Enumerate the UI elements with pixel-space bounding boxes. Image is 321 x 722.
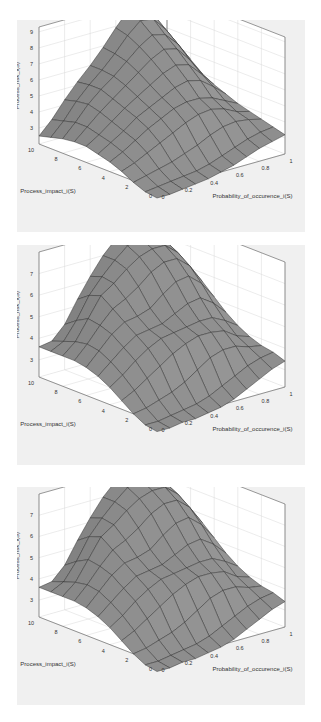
z-axis-label: Process_risk_i(S) bbox=[17, 532, 20, 579]
y-tick-label: 6 bbox=[78, 398, 81, 404]
surface-plot-2-canvas: 34567024681000.20.40.60.81Process_impact… bbox=[17, 245, 305, 465]
x-tick-label: 0.4 bbox=[210, 653, 218, 659]
x-axis-label: Probability_of_occurence_i(S) bbox=[212, 193, 292, 199]
x-tick-label: 0.8 bbox=[262, 638, 270, 644]
z-tick-label: 7 bbox=[30, 61, 33, 67]
z-axis-label: Process_risk_i(S) bbox=[17, 62, 20, 109]
y-tick-label: 8 bbox=[55, 629, 58, 635]
z-tick-label: 9 bbox=[30, 29, 33, 35]
z-tick-label: 5 bbox=[30, 314, 33, 320]
y-tick-label: 2 bbox=[125, 184, 128, 190]
y-tick-label: 0 bbox=[149, 426, 152, 432]
x-tick-label: 0.8 bbox=[262, 165, 270, 171]
z-tick-label: 6 bbox=[30, 77, 33, 83]
y-tick-label: 4 bbox=[102, 648, 105, 654]
x-axis-label: Probability_of_occurence_i(S) bbox=[212, 666, 292, 672]
y-tick-label: 10 bbox=[28, 380, 34, 386]
z-tick-label: 5 bbox=[30, 555, 33, 561]
y-tick-label: 0 bbox=[149, 193, 152, 199]
y-tick-label: 10 bbox=[28, 620, 34, 626]
surface-plot-1-canvas: 3456789024681000.20.40.60.81Process_impa… bbox=[17, 20, 305, 232]
x-tick-label: 1 bbox=[289, 391, 292, 397]
y-tick-label: 8 bbox=[55, 389, 58, 395]
z-tick-label: 5 bbox=[30, 93, 33, 99]
z-tick-label: 6 bbox=[30, 533, 33, 539]
y-tick-label: 2 bbox=[125, 417, 128, 423]
x-tick-label: 0.2 bbox=[185, 660, 193, 666]
z-tick-label: 3 bbox=[30, 125, 33, 131]
z-tick-label: 6 bbox=[30, 292, 33, 298]
z-tick-label: 3 bbox=[30, 597, 33, 603]
x-tick-label: 0 bbox=[161, 194, 164, 200]
surface-plot-3-canvas: 34567024681000.20.40.60.81Process_impact… bbox=[17, 487, 305, 705]
y-axis-label: Process_impact_i(S) bbox=[20, 188, 75, 194]
z-tick-label: 4 bbox=[30, 109, 33, 115]
y-tick-label: 2 bbox=[125, 657, 128, 663]
y-tick-label: 6 bbox=[78, 165, 81, 171]
z-tick-label: 8 bbox=[30, 45, 33, 51]
x-tick-label: 0.4 bbox=[210, 180, 218, 186]
surface-plot-2: 34567024681000.20.40.60.81Process_impact… bbox=[17, 245, 305, 465]
x-tick-label: 0 bbox=[161, 427, 164, 433]
z-tick-label: 7 bbox=[30, 512, 33, 518]
z-tick-label: 4 bbox=[30, 576, 33, 582]
x-axis-label: Probability_of_occurence_i(S) bbox=[212, 426, 292, 432]
x-tick-label: 1 bbox=[289, 158, 292, 164]
y-axis-label: Process_impact_i(S) bbox=[20, 421, 75, 427]
z-axis-label: Process_risk_i(S) bbox=[17, 291, 20, 338]
x-tick-label: 0.4 bbox=[210, 413, 218, 419]
x-tick-label: 0.8 bbox=[262, 398, 270, 404]
y-tick-label: 6 bbox=[78, 638, 81, 644]
x-tick-label: 1 bbox=[289, 631, 292, 637]
y-tick-label: 8 bbox=[55, 156, 58, 162]
z-tick-label: 3 bbox=[30, 357, 33, 363]
z-tick-label: 7 bbox=[30, 271, 33, 277]
x-tick-label: 0.6 bbox=[236, 172, 244, 178]
surface-plot-1: 3456789024681000.20.40.60.81Process_impa… bbox=[17, 20, 305, 232]
surface-plot-3: 34567024681000.20.40.60.81Process_impact… bbox=[17, 487, 305, 705]
x-tick-label: 0.6 bbox=[236, 405, 244, 411]
y-tick-label: 4 bbox=[102, 408, 105, 414]
x-tick-label: 0 bbox=[161, 667, 164, 673]
y-axis-label: Process_impact_i(S) bbox=[20, 661, 75, 667]
x-tick-label: 0.2 bbox=[185, 420, 193, 426]
y-tick-label: 0 bbox=[149, 666, 152, 672]
y-tick-label: 10 bbox=[28, 147, 34, 153]
x-tick-label: 0.2 bbox=[185, 187, 193, 193]
x-tick-label: 0.6 bbox=[236, 645, 244, 651]
y-tick-label: 4 bbox=[102, 175, 105, 181]
z-tick-label: 4 bbox=[30, 335, 33, 341]
